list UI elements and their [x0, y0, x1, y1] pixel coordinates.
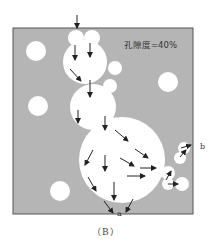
pore — [161, 166, 175, 180]
figure-caption: （B） — [92, 225, 120, 238]
porosity-flow-diagram — [0, 0, 216, 244]
pore — [28, 96, 48, 116]
outlet-label-a: a — [117, 209, 122, 218]
porosity-label: 孔隙度=40% — [124, 38, 177, 50]
pore — [50, 181, 70, 201]
pore — [108, 61, 122, 75]
side-label-b: b — [200, 142, 205, 151]
pore — [158, 72, 178, 92]
pore — [79, 117, 165, 203]
pore — [26, 41, 46, 61]
pore — [174, 152, 186, 164]
pore — [63, 40, 107, 84]
